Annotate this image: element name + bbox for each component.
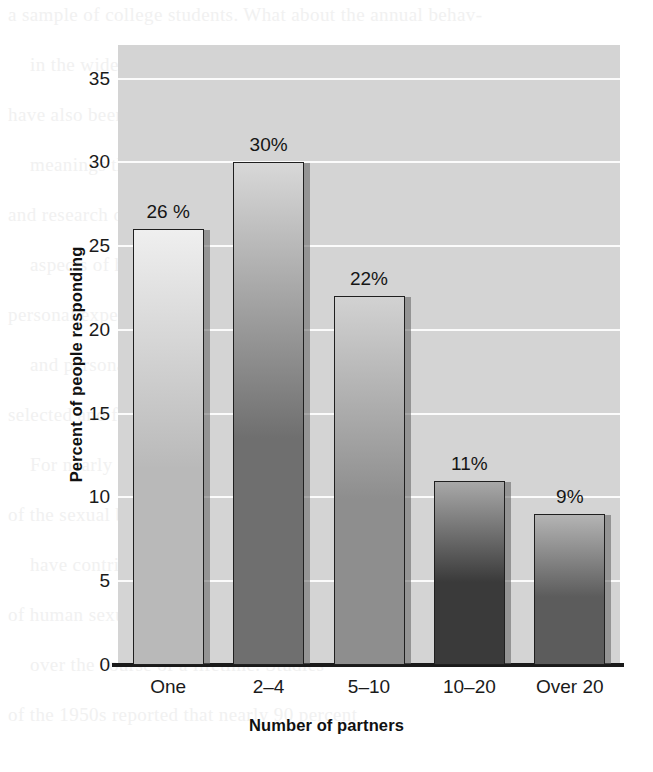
y-tick-label: 25 <box>2 235 110 257</box>
y-tick-label: 30 <box>2 151 110 173</box>
y-tick-label: 5 <box>2 570 110 592</box>
bar <box>434 481 505 665</box>
x-tick-label: Over 20 <box>500 676 640 698</box>
bar-value-label: 30% <box>209 134 329 156</box>
y-tick-label: 0 <box>2 654 110 676</box>
bar-value-label: 9% <box>510 486 630 508</box>
y-axis-title: Percent of people responding <box>67 215 86 515</box>
y-tick-label: 20 <box>2 319 110 341</box>
bar-value-label: 11% <box>409 453 529 475</box>
bar-value-label: 22% <box>309 268 429 290</box>
bar <box>534 514 605 665</box>
x-axis-title: Number of partners <box>0 716 653 735</box>
bar <box>233 162 304 665</box>
gridline <box>118 78 620 80</box>
y-tick-label: 35 <box>2 68 110 90</box>
y-tick-label: 15 <box>2 403 110 425</box>
bar <box>133 229 204 665</box>
gridline <box>118 161 620 163</box>
y-tick-label: 10 <box>2 486 110 508</box>
bar <box>334 296 405 665</box>
bar-value-label: 26 % <box>108 201 228 223</box>
bar-chart: 05101520253035 26 %30%22%11%9% One2–45–1… <box>0 0 653 772</box>
